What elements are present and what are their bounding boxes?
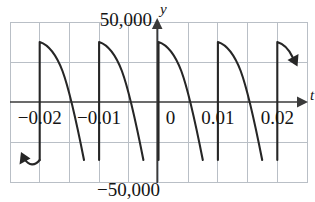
- sawtooth-waveform-chart: 50,000 −50,000 −0.02 −0.01 0 0.01 0.02 y…: [0, 0, 315, 202]
- y-axis-name-label: y: [158, 1, 167, 17]
- x-tick-label-neg-0-01: −0.01: [77, 107, 121, 128]
- x-tick-label-neg-0-02: −0.02: [18, 107, 62, 128]
- x-tick-label-0-02: 0.02: [261, 107, 294, 128]
- y-axis-top-value-label: 50,000: [100, 9, 152, 30]
- x-tick-label-0-01: 0.01: [201, 107, 234, 128]
- chart-figure: 50,000 −50,000 −0.02 −0.01 0 0.01 0.02 y…: [0, 0, 315, 202]
- x-tick-label-zero: 0: [166, 107, 176, 128]
- y-axis-bottom-value-label: −50,000: [97, 179, 160, 200]
